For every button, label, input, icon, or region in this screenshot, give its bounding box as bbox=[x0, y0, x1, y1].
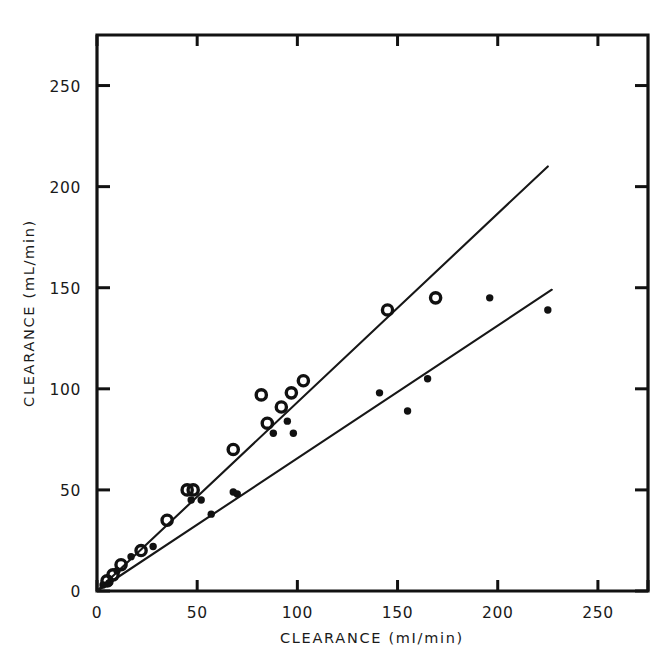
x-axis-tick-labels: 050100150200250 bbox=[92, 604, 614, 622]
y-tick-label-100: 100 bbox=[50, 381, 81, 399]
open-circle-series-markers bbox=[102, 293, 441, 586]
shallow-regression-line bbox=[97, 290, 552, 591]
y-axis-ticks bbox=[97, 86, 648, 591]
x-tick-label-50: 50 bbox=[187, 604, 208, 622]
data-point-filled-dot bbox=[284, 417, 291, 424]
data-point-filled-dot bbox=[208, 510, 215, 517]
data-point-filled-dot bbox=[270, 430, 277, 437]
steep-regression-line bbox=[97, 166, 548, 591]
data-point-filled-dot bbox=[486, 294, 493, 301]
data-point-open-circle bbox=[276, 402, 286, 412]
data-point-open-circle bbox=[116, 560, 126, 570]
data-point-open-circle bbox=[228, 444, 238, 454]
data-point-filled-dot bbox=[149, 543, 156, 550]
y-axis-tick-labels: 050100150200250 bbox=[50, 78, 81, 601]
data-point-open-circle bbox=[382, 305, 392, 315]
x-axis-ticks bbox=[97, 35, 648, 591]
y-tick-label-200: 200 bbox=[50, 179, 81, 197]
regression-lines bbox=[97, 166, 552, 591]
x-tick-label-250: 250 bbox=[582, 604, 613, 622]
y-tick-label-250: 250 bbox=[50, 78, 81, 96]
x-tick-label-200: 200 bbox=[482, 604, 513, 622]
data-point-filled-dot bbox=[187, 496, 194, 503]
scatter-plot-svg: 050100150200250 050100150200250 CLEARANC… bbox=[0, 0, 671, 659]
data-point-filled-dot bbox=[234, 490, 241, 497]
data-point-filled-dot bbox=[544, 306, 551, 313]
data-point-filled-dot bbox=[404, 407, 411, 414]
x-axis-title: CLEARANCE (mI/min) bbox=[280, 630, 464, 646]
y-tick-label-0: 0 bbox=[71, 583, 81, 601]
chart-figure: 050100150200250 050100150200250 CLEARANC… bbox=[0, 0, 671, 659]
data-point-filled-dot bbox=[376, 389, 383, 396]
x-tick-label-0: 0 bbox=[92, 604, 102, 622]
data-point-open-circle bbox=[262, 418, 272, 428]
data-point-filled-dot bbox=[290, 430, 297, 437]
data-point-open-circle bbox=[286, 388, 296, 398]
data-point-filled-dot bbox=[197, 496, 204, 503]
data-point-open-circle bbox=[298, 376, 308, 386]
y-axis-title: CLEARANCE (mL/min) bbox=[21, 219, 37, 407]
x-tick-label-100: 100 bbox=[282, 604, 313, 622]
x-tick-label-150: 150 bbox=[382, 604, 413, 622]
y-tick-label-50: 50 bbox=[60, 482, 81, 500]
data-point-open-circle bbox=[431, 293, 441, 303]
data-point-filled-dot bbox=[127, 553, 134, 560]
data-point-open-circle bbox=[162, 515, 172, 525]
axis-frame-path bbox=[97, 35, 648, 591]
plot-frame bbox=[97, 35, 648, 591]
data-point-filled-dot bbox=[424, 375, 431, 382]
y-tick-label-150: 150 bbox=[50, 280, 81, 298]
data-point-open-circle bbox=[256, 390, 266, 400]
